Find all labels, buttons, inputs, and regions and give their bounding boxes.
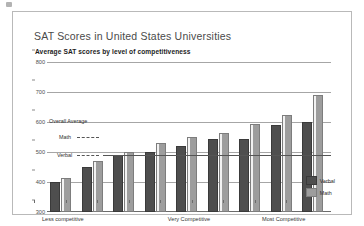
bar-verbal xyxy=(113,155,123,212)
bar-verbal xyxy=(145,152,155,212)
bar-group xyxy=(271,62,299,212)
bar-group xyxy=(208,62,236,212)
chart-screenshot: SAT Scores in United States Universities… xyxy=(0,0,364,226)
legend-swatch-verbal-icon xyxy=(306,176,317,185)
annotation-overall-average: Overall Average xyxy=(49,118,87,124)
annotation-math-line xyxy=(77,137,99,138)
legend-label-math: Math xyxy=(320,190,332,196)
y-axis-labels: 300400500600700800 xyxy=(25,62,45,212)
bar-group xyxy=(239,62,267,212)
annotation-verbal: Verbal xyxy=(57,152,72,158)
x-axis-group-label: Very Competitive xyxy=(168,216,210,222)
bar-verbal xyxy=(82,167,92,212)
bar-math xyxy=(93,161,103,212)
x-tick-mark xyxy=(97,200,98,203)
bar-math xyxy=(61,178,71,213)
bar-math xyxy=(250,124,260,213)
y-tick-label: 500 xyxy=(36,149,45,155)
bar-group xyxy=(145,62,173,212)
legend-item-verbal: Verbal xyxy=(306,176,335,185)
y-tick-label: 700 xyxy=(36,89,45,95)
legend-swatch-math-icon xyxy=(306,188,317,197)
y-tick-label: 400 xyxy=(36,179,45,185)
annotation-verbal-line xyxy=(77,155,99,156)
bar-math xyxy=(282,115,292,213)
legend-label-verbal: Verbal xyxy=(320,178,335,184)
x-tick-mark xyxy=(192,200,193,203)
chart-legend: Verbal Math xyxy=(306,176,335,200)
bar-verbal xyxy=(239,139,249,213)
bar-group xyxy=(176,62,204,212)
bar-verbal xyxy=(271,125,281,212)
y-tick-label: 800 xyxy=(36,59,45,65)
x-tick-mark xyxy=(34,200,35,203)
y-tick-mark xyxy=(32,50,35,51)
x-tick-mark xyxy=(129,200,130,203)
y-tick-label: 600 xyxy=(36,119,45,125)
x-tick-mark xyxy=(223,200,224,203)
bar-verbal xyxy=(50,182,60,212)
x-tick-mark xyxy=(255,200,256,203)
plot-area: Overall Average Math Verbal xyxy=(47,62,331,212)
x-axis-group-label: Most Competitive xyxy=(262,216,305,222)
x-tick-mark xyxy=(286,200,287,203)
corner-marker-icon xyxy=(6,2,12,7)
y-tick-mark xyxy=(32,140,35,141)
chart-subtitle: Average SAT scores by level of competiti… xyxy=(35,48,191,55)
y-tick-label: 300 xyxy=(36,209,45,215)
annotation-verbal-rule xyxy=(103,155,331,156)
figure-container: SAT Scores in United States Universities… xyxy=(12,11,352,215)
y-tick-mark xyxy=(32,80,35,81)
bar-math xyxy=(124,152,134,212)
y-tick-mark xyxy=(32,170,35,171)
bar-verbal xyxy=(208,139,218,213)
bar-group xyxy=(113,62,141,212)
chart-title: SAT Scores in United States Universities xyxy=(34,30,231,42)
annotation-math: Math xyxy=(59,134,71,140)
x-tick-mark xyxy=(160,200,161,203)
x-axis-group-label: Less competitive xyxy=(42,216,84,222)
y-tick-mark xyxy=(32,110,35,111)
x-tick-mark xyxy=(66,200,67,203)
legend-item-math: Math xyxy=(306,188,335,197)
